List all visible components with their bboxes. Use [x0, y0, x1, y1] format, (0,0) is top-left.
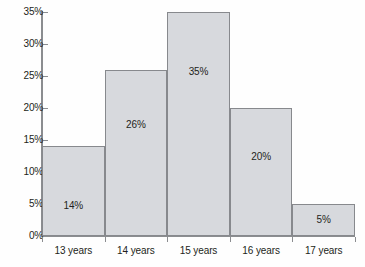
bar — [167, 12, 230, 236]
bar-value-label: 5% — [292, 215, 355, 225]
bar — [42, 146, 105, 236]
y-tick-label: 5% — [29, 199, 43, 209]
y-tick-label: 20% — [24, 103, 43, 113]
y-tick-mark — [43, 44, 48, 45]
bar — [105, 70, 168, 236]
x-tick-label: 16 years — [230, 245, 293, 256]
x-tick-label: 17 years — [292, 245, 355, 256]
x-tick-label: 15 years — [167, 245, 230, 256]
bar-value-label: 35% — [167, 67, 230, 77]
bar-value-label: 20% — [230, 152, 293, 162]
bar — [230, 108, 293, 236]
bar-value-label: 26% — [105, 120, 168, 130]
y-tick-mark — [43, 12, 48, 13]
bar-chart: 0%5%10%15%20%25%30%35% 13 years14 years1… — [0, 0, 365, 267]
y-tick-label: 30% — [24, 39, 43, 49]
x-tick-mark — [292, 237, 293, 242]
y-tick-label: 35% — [24, 7, 43, 17]
x-tick-mark — [42, 237, 43, 242]
y-tick-label: 15% — [24, 135, 43, 145]
y-tick-mark — [43, 108, 48, 109]
x-tick-mark — [105, 237, 106, 242]
y-tick-mark — [43, 76, 48, 77]
x-tick-mark — [230, 237, 231, 242]
x-tick-mark — [355, 237, 356, 242]
y-tick-label: 10% — [24, 167, 43, 177]
y-tick-mark — [43, 140, 48, 141]
x-tick-mark — [167, 237, 168, 242]
bar-value-label: 14% — [42, 201, 105, 211]
y-tick-label: 0% — [29, 231, 43, 241]
y-tick-label: 25% — [24, 71, 43, 81]
x-tick-label: 14 years — [105, 245, 168, 256]
x-tick-label: 13 years — [42, 245, 105, 256]
